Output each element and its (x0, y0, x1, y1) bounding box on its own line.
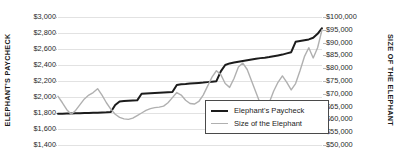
left-tick-label: $2,200 (14, 77, 56, 84)
legend-swatch-size-icon (211, 123, 228, 124)
left-tickmark (54, 129, 57, 130)
right-tick-label: $90,000 (326, 39, 374, 46)
legend-swatch-paycheck-icon (211, 110, 228, 112)
right-tick-label: $65,000 (326, 103, 374, 110)
left-tickmark (54, 17, 57, 18)
right-tick-label: $75,000 (326, 77, 374, 84)
dual-axis-line-chart: ELEPHANT'S PAYCHECK $3,000$2,800$2,600$2… (0, 0, 397, 160)
right-axis-title: SIZE OF THE ELEPHANT (383, 0, 397, 160)
left-tick-label: $3,000 (14, 13, 56, 20)
left-tick-label: $2,400 (14, 61, 56, 68)
right-tick-label: $50,000 (326, 141, 374, 148)
left-tickmark (54, 49, 57, 50)
chart-legend: Elephant's Paycheck Size of the Elephant (205, 100, 329, 134)
legend-label-paycheck: Elephant's Paycheck (234, 106, 304, 115)
right-tick-label: $85,000 (326, 51, 374, 58)
right-axis-title-text: SIZE OF THE ELEPHANT (386, 34, 395, 126)
right-tick-label: $100,000 (326, 13, 374, 20)
left-axis-title: ELEPHANT'S PAYCHECK (0, 0, 14, 160)
legend-label-size: Size of the Elephant (234, 119, 302, 128)
right-tick-label: $55,000 (326, 128, 374, 135)
legend-item-paycheck: Elephant's Paycheck (211, 104, 323, 117)
left-tickmark (54, 33, 57, 34)
left-tick-label: $1,800 (14, 109, 56, 116)
right-axis-tick-labels: $100,000$95,000$90,000$85,000$80,000$75,… (326, 0, 374, 160)
left-tickmark (54, 113, 57, 114)
right-tick-label: $80,000 (326, 64, 374, 71)
right-tick-label: $60,000 (326, 115, 374, 122)
left-tick-label: $2,600 (14, 45, 56, 52)
left-tick-label: $1,400 (14, 141, 56, 148)
left-tickmark (54, 97, 57, 98)
left-tickmark (54, 145, 57, 146)
right-tick-label: $70,000 (326, 90, 374, 97)
left-tick-label: $2,000 (14, 93, 56, 100)
left-tick-label: $1,600 (14, 125, 56, 132)
left-axis-tick-labels: $3,000$2,800$2,600$2,400$2,200$2,000$1,8… (14, 0, 56, 160)
left-axis-title-text: ELEPHANT'S PAYCHECK (3, 33, 12, 126)
left-tickmark (54, 81, 57, 82)
legend-item-size: Size of the Elephant (211, 117, 323, 130)
right-tick-label: $95,000 (326, 26, 374, 33)
left-tickmark (54, 65, 57, 66)
left-tick-label: $2,800 (14, 29, 56, 36)
gridline (58, 145, 322, 146)
